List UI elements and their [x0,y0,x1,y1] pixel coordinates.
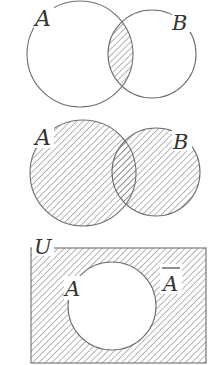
label-b: B [171,11,187,35]
label-a: A [33,6,51,31]
diagram-intersection: A B [27,1,196,107]
label-a: A [63,277,80,301]
label-u: U [34,235,53,259]
diagram-union: A B [30,120,200,226]
label-a: A [33,125,51,150]
label-b: B [172,130,188,154]
diagram-complement: U A A [31,235,206,363]
venn-diagrams: A B A B U A A [0,0,215,365]
label-a-complement: A [161,272,178,296]
